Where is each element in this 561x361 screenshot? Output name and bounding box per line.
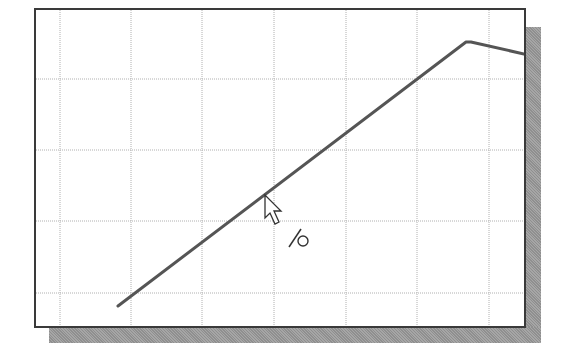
sketch-canvas[interactable] [36,10,524,326]
sketch-polyline[interactable] [118,42,524,306]
viewport-shadow-bottom [49,327,541,343]
arrow-pointer-icon [265,195,281,224]
point-on-line-constraint-icon [289,229,308,247]
grid [36,10,524,326]
viewport-shadow-right [525,27,541,343]
sketch-viewport[interactable] [34,8,526,328]
